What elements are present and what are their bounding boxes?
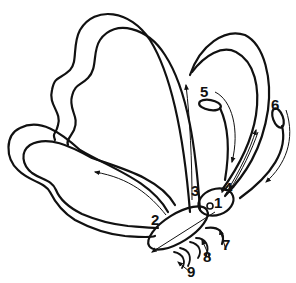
label-5: 5 (200, 84, 208, 99)
label-6: 6 (271, 97, 279, 112)
label-3: 3 (191, 183, 199, 198)
legs (174, 228, 226, 272)
label-9: 9 (187, 264, 195, 279)
label-8: 8 (203, 249, 211, 264)
label-1: 1 (214, 195, 222, 210)
butterfly-diagram: 1 2 3 4 5 6 7 8 9 (0, 0, 296, 283)
front-wing-left (51, 14, 200, 212)
label-4: 4 (224, 180, 232, 195)
butterfly-drawing (0, 0, 296, 283)
front-wing-right (190, 33, 269, 196)
label-7: 7 (222, 237, 230, 252)
label-2: 2 (151, 212, 159, 227)
flap-5 (198, 92, 235, 180)
